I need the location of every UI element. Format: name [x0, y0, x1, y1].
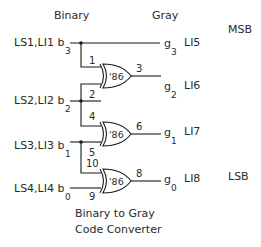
pin-number: 9	[89, 191, 95, 202]
input-b0: LS4,LI4 b 0	[14, 182, 71, 202]
output-label: g	[164, 173, 171, 186]
pin-number: 4	[89, 111, 95, 122]
input-subscript: 1	[65, 149, 71, 159]
gate-part-number: '86	[109, 129, 124, 140]
input-subscript: 3	[65, 46, 71, 56]
input-b2: LS2,LI2 b 2	[14, 94, 71, 114]
lsb-label: LSB	[228, 170, 249, 183]
input-subscript: 2	[65, 104, 71, 114]
header-gray: Gray	[152, 9, 179, 22]
output-tag: LI7	[184, 125, 200, 138]
pin-number: 1	[89, 55, 95, 66]
input-b3: LS1,LI1 b 3	[14, 36, 71, 56]
xor-gate-2: '86	[100, 122, 131, 146]
output-tag: LI5	[184, 36, 200, 49]
pin-number: 10	[86, 158, 99, 169]
input-subscript: 0	[65, 192, 71, 202]
msb-label: MSB	[228, 23, 252, 36]
output-subscript: 0	[171, 183, 177, 193]
output-g3: g 3 LI5	[164, 36, 200, 57]
pin-number: 6	[136, 121, 142, 132]
pin-number: 2	[89, 89, 95, 100]
xor-gate-1: '86	[100, 64, 131, 88]
pin-number: 5	[89, 147, 95, 158]
binary-to-gray-diagram: Binary Gray MSB LSB LS1,LI1 b 3 LS2,LI2 …	[0, 0, 261, 247]
junction-dot	[79, 99, 83, 103]
input-label: LS3,LI3 b	[14, 139, 64, 152]
input-label: LS1,LI1 b	[14, 36, 64, 49]
xor-gate-3: '86	[100, 169, 131, 193]
input-label: LS4,LI4 b	[14, 182, 64, 195]
output-subscript: 1	[171, 136, 177, 146]
diagram-title-line2: Code Converter	[75, 223, 162, 236]
wires	[70, 43, 161, 188]
pin-number: 3	[136, 63, 142, 74]
input-label: LS2,LI2 b	[14, 94, 64, 107]
output-label: g	[164, 37, 171, 50]
output-g0: g 0 LI8	[164, 172, 200, 193]
output-subscript: 2	[171, 90, 177, 100]
output-label: g	[164, 126, 171, 139]
output-g1: g 1 LI7	[164, 125, 200, 146]
output-tag: LI8	[184, 172, 200, 185]
header-binary: Binary	[54, 9, 90, 22]
gate-part-number: '86	[109, 71, 124, 82]
output-g2: g 2 LI6	[164, 79, 200, 100]
diagram-title-line1: Binary to Gray	[75, 207, 155, 220]
output-subscript: 3	[171, 47, 177, 57]
output-tag: LI6	[184, 79, 200, 92]
pin-number: 8	[136, 168, 142, 179]
gate-part-number: '86	[109, 176, 124, 187]
junction-dot	[79, 140, 83, 144]
input-b1: LS3,LI3 b 1	[14, 139, 71, 159]
output-label: g	[164, 80, 171, 93]
junction-dot	[79, 41, 83, 45]
